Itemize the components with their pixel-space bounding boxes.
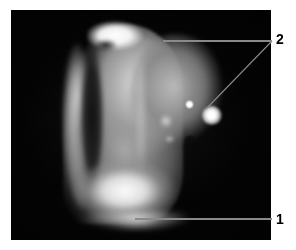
specular-highlight-large	[202, 106, 222, 125]
callout-label-2: 2	[276, 32, 284, 46]
dark-inclusion-spot	[181, 132, 198, 148]
specimen-top-cap	[87, 20, 145, 50]
specular-highlight-mid	[163, 134, 176, 144]
specimen-interior-seam	[137, 56, 145, 176]
specimen-photograph	[11, 10, 271, 240]
specular-highlight-small	[185, 100, 194, 109]
figure-root: 2 1	[0, 0, 296, 250]
specimen-dome	[129, 34, 231, 154]
specimen-cap-notch	[93, 38, 119, 52]
specimen-dark-gap	[77, 36, 107, 206]
callout-label-1: 1	[276, 212, 284, 226]
specular-highlight-faint	[159, 114, 173, 128]
substrate-glow-inner	[97, 218, 177, 232]
vignette-overlay	[11, 10, 271, 240]
specimen-left-crescent	[43, 27, 112, 225]
film-grain-overlay	[11, 10, 271, 240]
substrate-glow	[81, 208, 191, 234]
specimen-base-mass	[73, 158, 181, 230]
specimen-body	[63, 24, 183, 224]
